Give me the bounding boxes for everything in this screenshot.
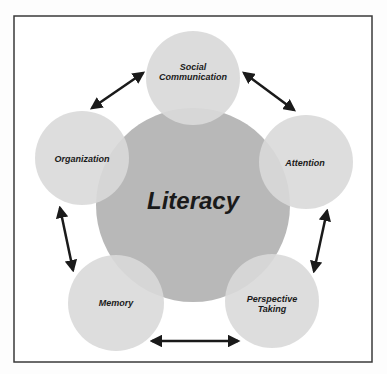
center-label: Literacy: [147, 187, 241, 214]
node-memory: Memory: [68, 255, 164, 351]
node-label: Social: [180, 62, 207, 72]
node-social: Social Communication: [146, 31, 240, 125]
node-label: Perspective: [247, 294, 298, 304]
node-label: Attention: [284, 158, 325, 168]
node-label: Organization: [54, 154, 110, 164]
node-label: Communication: [159, 72, 228, 82]
node-perspective: Perspective Taking: [225, 254, 319, 348]
node-attention: Attention: [259, 115, 353, 209]
node-organization: Organization: [35, 111, 129, 205]
node-label: Memory: [99, 298, 135, 308]
literacy-diagram: Social Communication Attention Perspecti…: [0, 0, 387, 374]
node-label: Taking: [258, 304, 287, 314]
